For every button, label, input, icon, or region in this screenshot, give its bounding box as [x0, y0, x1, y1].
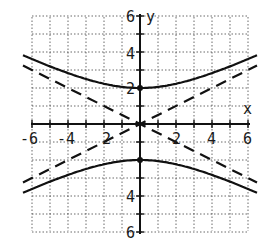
y-tick-label: 4	[126, 45, 135, 63]
x-axis-label: x	[243, 100, 252, 118]
y-tick-label: 6	[126, 8, 135, 26]
x-tick-label: 2	[172, 130, 181, 148]
hyperbola-graph: x y -6 -4 2 2 4 6 6 4 2 4 6	[0, 0, 277, 246]
y-tick-label: 6	[126, 224, 135, 242]
x-tick-label: 4	[207, 130, 216, 148]
x-tick-label: -6	[20, 130, 38, 148]
y-tick-label: 2	[126, 80, 135, 98]
x-tick-label: -4	[57, 130, 75, 148]
y-axis-label: y	[146, 8, 155, 26]
x-tick-label: 2	[102, 130, 111, 148]
x-tick-label: 6	[243, 130, 252, 148]
y-tick-label: 4	[126, 188, 135, 206]
